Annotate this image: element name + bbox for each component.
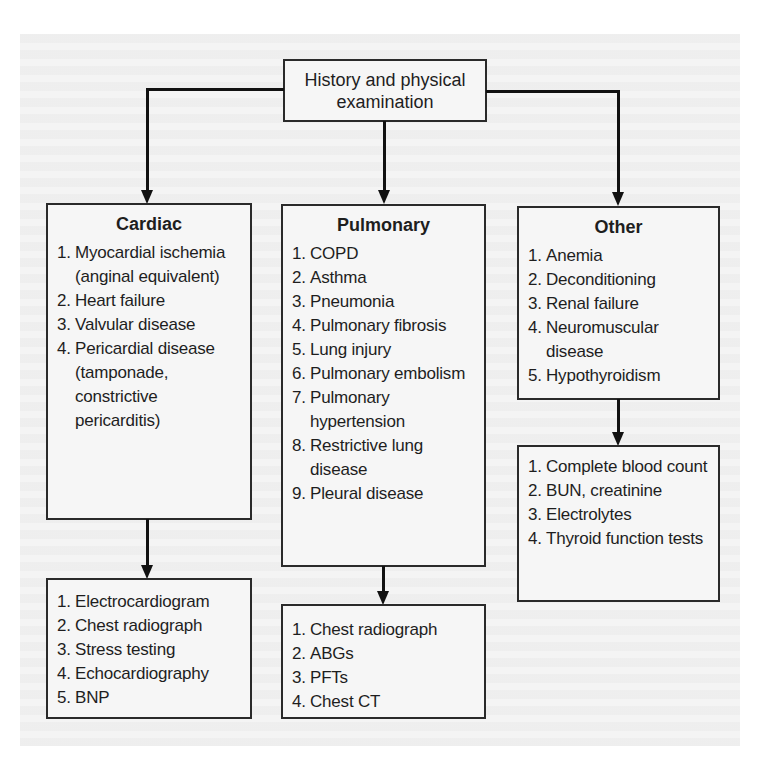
list-item: 5.Hypothyroidism xyxy=(519,364,714,388)
list-item: 3.Renal failure xyxy=(519,292,714,316)
other-tests-box: 1.Complete blood count 2.BUN, creatinine… xyxy=(517,445,720,602)
pulmonary-title: Pulmonary xyxy=(283,214,484,236)
cardiac-causes-box: Cardiac 1.Myocardial ischemia (anginal e… xyxy=(46,203,252,520)
pulmonary-tests-list: 1.Chest radiograph 2.ABGs 3.PFTs 4.Chest… xyxy=(283,618,484,714)
arrow-down-icon xyxy=(612,432,624,446)
list-item: 4.Thyroid function tests xyxy=(519,527,714,551)
arrow-down-icon xyxy=(141,565,153,579)
arrow-down-icon xyxy=(612,192,624,206)
list-item: 1.Anemia xyxy=(519,244,714,268)
list-item: 2.BUN, creatinine xyxy=(519,479,714,503)
list-item: 4.Neuromuscular disease xyxy=(519,316,714,364)
arrow-down-icon xyxy=(377,591,389,605)
list-item: 2.ABGs xyxy=(283,642,484,666)
list-item: 9.Pleural disease xyxy=(283,482,480,506)
connector-left-down xyxy=(146,88,149,192)
arrow-down-icon xyxy=(378,190,390,204)
list-item: 2.Heart failure xyxy=(48,289,242,313)
list-item: 1.Electrocardiogram xyxy=(48,590,250,614)
list-item: 8.Restrictive lung disease xyxy=(283,434,480,482)
other-tests-list: 1.Complete blood count 2.BUN, creatinine… xyxy=(519,455,718,551)
connector-right-down xyxy=(617,90,620,194)
list-item: 5.BNP xyxy=(48,686,250,710)
root-label-line2: examination xyxy=(304,91,465,113)
cardiac-tests-list: 1.Electrocardiogram 2.Chest radiograph 3… xyxy=(48,590,250,710)
list-item: 4.Pulmonary fibrosis xyxy=(283,314,480,338)
list-item: 3.Stress testing xyxy=(48,638,250,662)
other-causes-list: 1.Anemia 2.Deconditioning 3.Renal failur… xyxy=(519,244,718,388)
list-item: 1.Complete blood count xyxy=(519,455,714,479)
list-item: 1.COPD xyxy=(283,242,480,266)
connector-root-left xyxy=(146,88,284,91)
list-item: 4.Chest CT xyxy=(283,690,484,714)
root-label-line1: History and physical xyxy=(304,69,465,91)
cardiac-tests-box: 1.Electrocardiogram 2.Chest radiograph 3… xyxy=(46,578,252,719)
connector-root-right xyxy=(486,90,620,93)
list-item: 6.Pulmonary embolism xyxy=(283,362,480,386)
history-physical-box: History and physical examination xyxy=(283,59,487,122)
list-item: 3.Pneumonia xyxy=(283,290,480,314)
list-item: 2.Chest radiograph xyxy=(48,614,250,638)
pulmonary-causes-box: Pulmonary 1.COPD 2.Asthma 3.Pneumonia 4.… xyxy=(281,204,486,567)
arrow-down-icon xyxy=(141,190,153,204)
list-item: 3.Valvular disease xyxy=(48,313,242,337)
list-item: 2.Asthma xyxy=(283,266,480,290)
connector-other-tests xyxy=(617,399,620,434)
connector-pulmonary-tests xyxy=(382,566,385,593)
pulmonary-causes-list: 1.COPD 2.Asthma 3.Pneumonia 4.Pulmonary … xyxy=(283,242,484,506)
list-item: 1.Chest radiograph xyxy=(283,618,484,642)
other-causes-box: Other 1.Anemia 2.Deconditioning 3.Renal … xyxy=(517,206,720,400)
list-item: 2.Deconditioning xyxy=(519,268,714,292)
list-item: 1.Myocardial ischemia (anginal equivalen… xyxy=(48,241,242,289)
list-item: 5.Lung injury xyxy=(283,338,480,362)
list-item: 4.Echocardiography xyxy=(48,662,250,686)
list-item: 3.Electrolytes xyxy=(519,503,714,527)
list-item: 3.PFTs xyxy=(283,666,484,690)
pulmonary-tests-box: 1.Chest radiograph 2.ABGs 3.PFTs 4.Chest… xyxy=(281,604,486,719)
list-item: 7.Pulmonary hypertension xyxy=(283,386,480,434)
cardiac-causes-list: 1.Myocardial ischemia (anginal equivalen… xyxy=(48,241,250,433)
connector-cardiac-tests xyxy=(146,519,149,567)
connector-center-down xyxy=(383,121,386,192)
list-item: 4.Pericardial disease (tamponade, constr… xyxy=(48,337,242,433)
cardiac-title: Cardiac xyxy=(48,213,250,235)
other-title: Other xyxy=(519,216,718,238)
